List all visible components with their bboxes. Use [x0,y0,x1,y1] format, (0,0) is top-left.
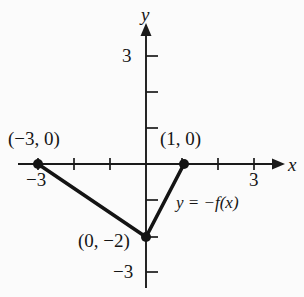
point-marker-right-root [179,159,189,169]
x-axis-arrowhead [272,159,285,170]
point-label-right-root: (1, 0) [160,129,201,148]
y-axis-label: y [141,5,149,24]
y-tick-label-neg3: −3 [113,262,133,281]
point-label-vertex: (0, −2) [78,231,130,250]
point-marker-vertex [141,232,151,242]
x-axis-label: x [288,155,296,174]
point-label-left-root: (−3, 0) [8,129,60,148]
x-tick-label-neg3: −3 [26,170,46,189]
function-curve [38,164,184,237]
point-marker-left-root [33,159,43,169]
y-tick-label-3: 3 [122,46,132,65]
function-equation-label: y = −f(x) [176,194,239,211]
x-tick-label-3: 3 [249,170,259,189]
axis-lines [18,36,272,288]
